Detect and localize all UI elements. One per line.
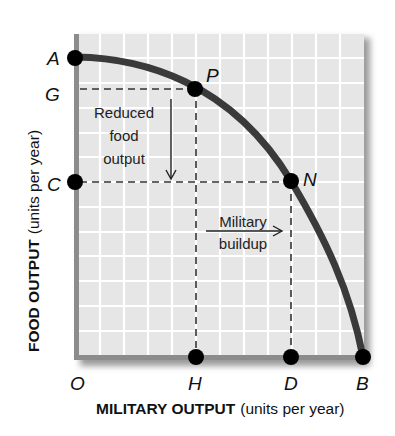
label-p: P [206,65,219,86]
label-g: G [45,84,60,105]
point-p-dot [187,81,203,97]
reduced-food-line-1: Reduced [94,104,154,121]
point-b-dot [355,349,371,365]
y-axis-title: FOOD OUTPUT(units per year) [25,130,42,352]
x-axis-title-units: (units per year) [240,400,344,417]
label-d: D [284,373,298,394]
y-axis-title-bold: FOOD OUTPUT [25,239,42,352]
label-c: C [47,174,61,195]
x-axis-title-bold: MILITARY OUTPUT [96,400,236,417]
military-buildup-line-1: Military [219,213,267,230]
ppf-diagram: A G C P N O H D B Reduced food output Mi… [0,0,395,436]
y-axis-title-units: (units per year) [25,130,42,234]
label-a: A [46,48,60,69]
label-o: O [70,373,85,394]
point-a-dot [67,50,83,66]
x-axis-line [74,355,366,360]
point-h-dot [188,349,204,365]
point-d-dot [283,349,299,365]
point-n-dot [283,173,299,189]
label-h: H [188,373,202,394]
x-axis-title: MILITARY OUTPUT(units per year) [96,400,344,417]
y-axis-line [74,34,79,360]
reduced-food-line-2: food [109,127,138,144]
military-buildup-line-2: buildup [219,235,267,252]
point-c-dot [67,174,83,190]
label-b: B [356,373,369,394]
label-n: N [303,169,317,190]
reduced-food-line-3: output [103,150,146,167]
